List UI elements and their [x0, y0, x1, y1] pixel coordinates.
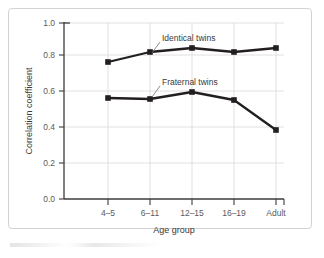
identical-twins-marker-2: [189, 45, 195, 51]
xtick-label-4-5: 4–5: [101, 208, 115, 218]
fraternal-twins-leader-line: [152, 86, 160, 97]
x-axis-tickmarks: [108, 199, 284, 205]
xtick-label-16-19: 16–19: [222, 208, 246, 218]
page-scan-artifact: [10, 243, 160, 247]
identical-twins-marker-3: [231, 49, 237, 55]
ytick-label-0.2: 0.2: [43, 158, 55, 168]
identical-twins-marker-4: [273, 45, 279, 51]
fraternal-twins-marker-4: [273, 127, 279, 133]
ytick-label-0.0: 0.0: [43, 194, 55, 204]
ytick-label-0.8: 0.8: [43, 50, 55, 60]
identical-twins-marker-0: [105, 59, 111, 65]
ytick-label-0.4: 0.4: [43, 122, 55, 132]
y-axis-title: Correlation coefficient: [24, 67, 34, 154]
identical-twins-marker-1: [147, 49, 153, 55]
xtick-label-adult: Adult: [266, 208, 286, 218]
line-chart: 1.0 0.8 0.6 0.4 0.2 0.0 4–5 6–11 12–15 1…: [0, 0, 324, 258]
fraternal-twins-label: Fraternal twins: [162, 77, 218, 87]
identical-twins-label: Identical twins: [162, 33, 215, 43]
y-axis-tick-labels: 1.0 0.8 0.6 0.4 0.2 0.0: [43, 18, 55, 204]
fraternal-twins-marker-3: [231, 97, 237, 103]
xtick-label-6-11: 6–11: [141, 208, 160, 218]
xtick-label-12-15: 12–15: [180, 208, 204, 218]
axis-spines: [64, 22, 284, 199]
ytick-label-0.6: 0.6: [43, 86, 55, 96]
figure-container: 1.0 0.8 0.6 0.4 0.2 0.0 4–5 6–11 12–15 1…: [0, 0, 324, 258]
fraternal-twins-marker-0: [105, 95, 111, 101]
fraternal-twins-marker-1: [147, 96, 153, 102]
ytick-label-1.0: 1.0: [43, 18, 55, 28]
x-axis-title: Age group: [153, 225, 195, 235]
fraternal-twins-marker-2: [189, 89, 195, 95]
x-axis-tick-labels: 4–5 6–11 12–15 16–19 Adult: [101, 208, 286, 218]
y-axis-tickmarks: [59, 23, 64, 199]
horizontal-gridlines: [64, 23, 284, 163]
